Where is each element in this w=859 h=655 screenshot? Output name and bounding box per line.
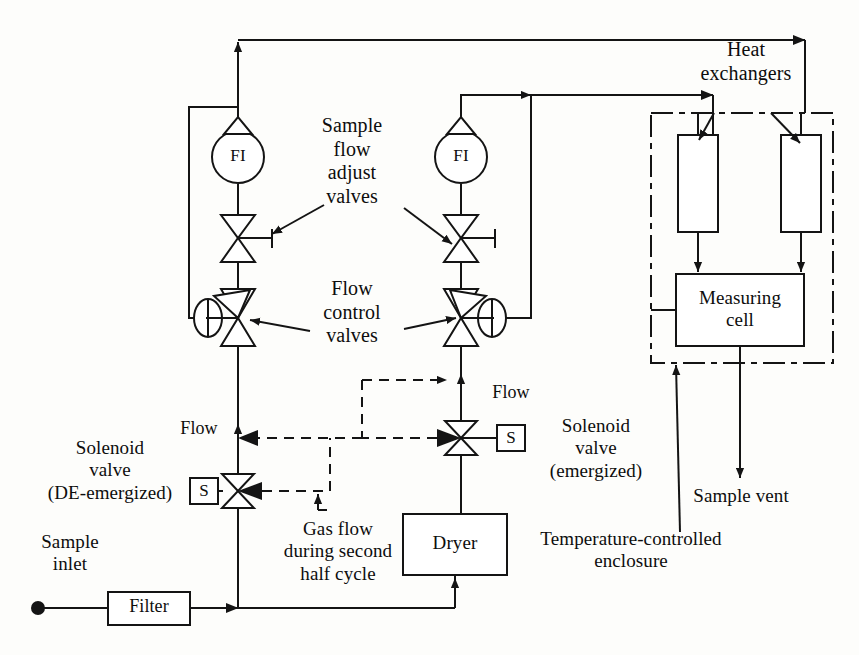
label-heat-exchangers: Heat exchangers [676, 38, 816, 85]
label-gas-flow-second-half-cycle: Gas flow during second half cycle [265, 518, 411, 585]
sample-flow-adjust-valve-right [444, 215, 495, 262]
right-recirculation-loop [494, 95, 531, 318]
label-temperature-controlled-enclosure: Temperature-controlled enclosure [511, 528, 751, 573]
label-sample-vent: Sample vent [676, 485, 806, 507]
solenoid-box-right-label: S [497, 428, 525, 448]
gas-flow-callout-hook [318, 494, 327, 510]
heat-exchanger-outlets [698, 232, 801, 272]
second-half-cycle-path [250, 380, 447, 491]
flow-indicator-left-label: FI [213, 146, 263, 166]
label-sample-flow-adjust-valves: Sample flow adjust valves [297, 114, 407, 208]
flow-indicator-right-label: FI [436, 146, 486, 166]
label-flow-control-valves: Flow control valves [297, 277, 407, 348]
label-flow-right: Flow [480, 382, 542, 403]
dashed-left-arrowhead [238, 430, 258, 446]
dryer-box-label: Dryer [402, 532, 508, 554]
label-flow-left: Flow [168, 418, 230, 439]
heat-exchanger-left-box [678, 135, 718, 232]
label-solenoid-valve-energized: Solenoid valve (emergized) [531, 415, 661, 482]
sample-flow-adjust-valve-left [221, 215, 272, 262]
process-flow-diagram: Sample flow adjust valves Flow control v… [0, 0, 859, 655]
sample-inlet-dot [31, 601, 45, 615]
heat-exchanger-right-box [781, 135, 821, 232]
right-branch-outlet-to-heat-exchanger [461, 95, 713, 135]
flow-control-valve-right [444, 289, 506, 346]
filter-label: Filter [108, 596, 190, 617]
solenoid-box-left-label: S [190, 481, 218, 501]
label-sample-inlet: Sample inlet [20, 531, 120, 576]
measuring-cell-text: Measuring cell [676, 287, 804, 332]
flow-control-valve-left [194, 289, 255, 346]
label-solenoid-valve-deenergized: Solenoid valve (DE-emergized) [30, 437, 190, 504]
